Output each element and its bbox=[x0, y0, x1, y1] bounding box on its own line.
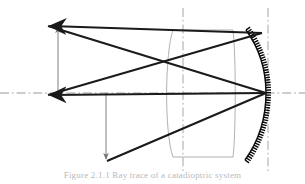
optics-ray-diagram bbox=[0, 0, 305, 184]
mirror-hatch-tick bbox=[259, 134, 264, 136]
mirror-hatch-tick bbox=[265, 75, 270, 76]
mirror-hatch-tick bbox=[253, 147, 257, 149]
dimension-markers bbox=[58, 27, 106, 159]
mirror-hatch-tick bbox=[265, 80, 270, 81]
ray-upper-incoming bbox=[50, 26, 262, 33]
primary-mirror bbox=[245, 27, 271, 163]
mirror-hatch-tick bbox=[260, 129, 265, 131]
mirror-hatch-tick bbox=[254, 145, 258, 147]
mirror-hatch-tick bbox=[260, 55, 265, 57]
primary-mirror-hatching bbox=[245, 27, 271, 163]
mirror-hatch-tick bbox=[265, 107, 270, 108]
mirror-hatch-tick bbox=[263, 64, 268, 65]
mirror-hatch-tick bbox=[256, 141, 261, 143]
mirror-hatch-tick bbox=[246, 27, 250, 30]
mirror-hatch-tick bbox=[264, 72, 269, 73]
mirror-hatch-tick bbox=[255, 143, 260, 145]
mirror-hatch-tick bbox=[265, 105, 270, 106]
mirror-hatch-tick bbox=[260, 131, 265, 133]
mirror-hatch-tick bbox=[252, 150, 256, 152]
mirror-hatch-tick bbox=[257, 47, 262, 49]
mirror-hatch-tick bbox=[253, 38, 257, 40]
mirror-hatch-tick bbox=[261, 59, 266, 60]
mirror-hatch-tick bbox=[250, 152, 254, 155]
figure-container: Figure 2.1.1 Ray trace of a catadioptric… bbox=[0, 0, 305, 184]
mirror-hatch-tick bbox=[264, 115, 269, 116]
mirror-hatch-tick bbox=[249, 154, 253, 157]
mirror-hatch-tick bbox=[264, 112, 269, 113]
ray-lower-reflected bbox=[48, 33, 262, 95]
mirror-hatch-tick bbox=[259, 52, 264, 54]
mirror-hatch-tick bbox=[248, 156, 252, 159]
figure-caption: Figure 2.1.1 Ray trace of a catadioptric… bbox=[0, 170, 305, 184]
mirror-hatch-tick bbox=[262, 124, 267, 125]
mirror-hatch-tick bbox=[255, 43, 259, 45]
mirror-hatch-tick bbox=[245, 160, 249, 163]
mirror-hatch-tick bbox=[256, 45, 261, 47]
mirror-hatch-tick bbox=[246, 158, 250, 161]
ray-lower-incoming bbox=[50, 93, 266, 95]
ray-bottom-diverging bbox=[107, 93, 266, 161]
mirror-hatch-tick bbox=[262, 62, 267, 63]
mirror-hatch-tick bbox=[265, 110, 270, 111]
mirror-hatch-tick bbox=[257, 138, 262, 140]
mirror-hatch-tick bbox=[263, 67, 268, 68]
mirror-hatch-tick bbox=[261, 57, 266, 59]
mirror-hatch-tick bbox=[265, 77, 270, 78]
mirror-hatch-tick bbox=[258, 50, 263, 52]
mirror-hatch-tick bbox=[254, 40, 258, 42]
ray-bundle bbox=[48, 26, 266, 161]
mirror-hatch-tick bbox=[261, 127, 266, 128]
mirror-hatch-tick bbox=[258, 136, 263, 138]
